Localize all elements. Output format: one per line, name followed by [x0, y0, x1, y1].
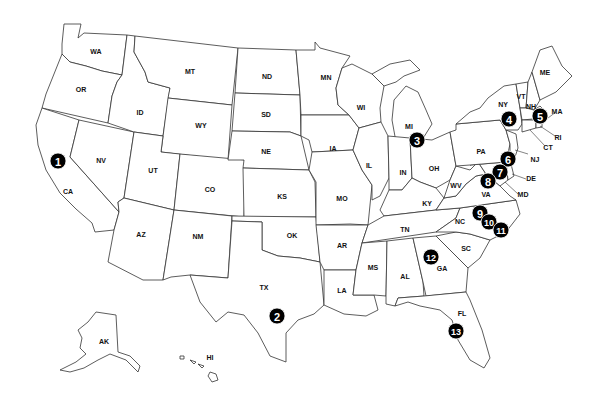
location-marker-13[interactable]: 13	[448, 323, 464, 339]
state-label-wa: WA	[90, 48, 101, 55]
state-label-ct: CT	[543, 144, 553, 151]
location-marker-1[interactable]: 1	[50, 153, 66, 169]
marker-number: 7	[497, 167, 503, 179]
state-label-wi: WI	[357, 104, 366, 111]
marker-number: 8	[485, 176, 491, 188]
state-label-oh: OH	[429, 165, 440, 172]
state-label-id: ID	[137, 109, 144, 116]
state-label-co: CO	[205, 186, 216, 193]
state-label-ky: KY	[422, 200, 432, 207]
location-marker-5[interactable]: 5	[532, 108, 548, 124]
location-marker-8[interactable]: 8	[480, 173, 496, 189]
location-marker-3[interactable]: 3	[409, 132, 425, 148]
state-label-ca: CA	[63, 188, 73, 195]
marker-number: 13	[451, 327, 461, 337]
state-label-me: ME	[540, 69, 551, 76]
marker-number: 10	[484, 218, 494, 228]
state-label-sd: SD	[261, 111, 271, 118]
state-label-ny: NY	[498, 101, 508, 108]
marker-number: 12	[426, 253, 436, 263]
state-label-mt: MT	[185, 68, 196, 75]
state-label-ia: IA	[330, 145, 337, 152]
location-marker-2[interactable]: 2	[269, 308, 285, 324]
state-label-sc: SC	[461, 245, 471, 252]
us-map: WAORCANVIDMTWYUTCOAZNMNDSDNEKSOKTXMNIAMO…	[0, 0, 604, 407]
state-wy[interactable]	[161, 98, 232, 160]
state-label-in: IN	[400, 169, 407, 176]
state-me[interactable]	[532, 46, 572, 100]
state-label-ri: RI	[555, 134, 562, 141]
state-ct[interactable]	[522, 120, 536, 132]
state-outlines	[36, 24, 572, 382]
state-label-mo: MO	[336, 195, 348, 202]
state-label-ne: NE	[261, 148, 271, 155]
location-marker-4[interactable]: 4	[501, 111, 517, 127]
state-label-fl: FL	[458, 310, 467, 317]
state-label-ks: KS	[277, 193, 287, 200]
state-label-hi: HI	[207, 354, 214, 361]
marker-number: 11	[496, 226, 506, 236]
state-label-ak: AK	[99, 338, 109, 345]
state-nd[interactable]	[235, 48, 300, 95]
state-label-md: MD	[518, 191, 529, 198]
state-label-ar: AR	[337, 242, 347, 249]
state-label-pa: PA	[476, 148, 485, 155]
state-label-al: AL	[400, 273, 410, 280]
state-label-la: LA	[337, 287, 346, 294]
marker-number: 5	[537, 111, 543, 123]
marker-number: 4	[506, 114, 513, 126]
state-nm[interactable]	[163, 210, 232, 280]
state-label-tx: TX	[260, 284, 269, 291]
state-label-vt: VT	[517, 93, 527, 100]
state-label-az: AZ	[136, 231, 146, 238]
state-fl[interactable]	[395, 292, 490, 368]
state-label-ok: OK	[287, 232, 298, 239]
state-label-wv: WV	[450, 182, 462, 189]
state-label-wy: WY	[195, 122, 207, 129]
state-label-de: DE	[526, 175, 536, 182]
state-label-nc: NC	[455, 218, 465, 225]
location-marker-11[interactable]: 11	[493, 222, 509, 238]
state-label-mi: MI	[405, 123, 413, 130]
state-label-nj: NJ	[531, 156, 540, 163]
state-label-ut: UT	[148, 167, 158, 174]
location-marker-12[interactable]: 12	[423, 249, 439, 265]
state-label-il: IL	[366, 162, 373, 169]
marker-number: 6	[505, 154, 511, 166]
state-label-mn: MN	[321, 74, 332, 81]
state-label-tn: TN	[400, 226, 409, 233]
state-label-nv: NV	[96, 157, 106, 164]
marker-number: 3	[414, 135, 420, 147]
state-label-ma: MA	[552, 108, 563, 115]
state-label-nd: ND	[262, 73, 272, 80]
state-label-va: VA	[481, 191, 490, 198]
state-label-nh: NH	[526, 103, 536, 110]
marker-number: 2	[274, 311, 280, 323]
state-label-or: OR	[76, 86, 87, 93]
state-label-nm: NM	[193, 233, 204, 240]
marker-number: 1	[55, 156, 61, 168]
state-label-ga: GA	[437, 265, 448, 272]
state-label-ms: MS	[368, 264, 379, 271]
